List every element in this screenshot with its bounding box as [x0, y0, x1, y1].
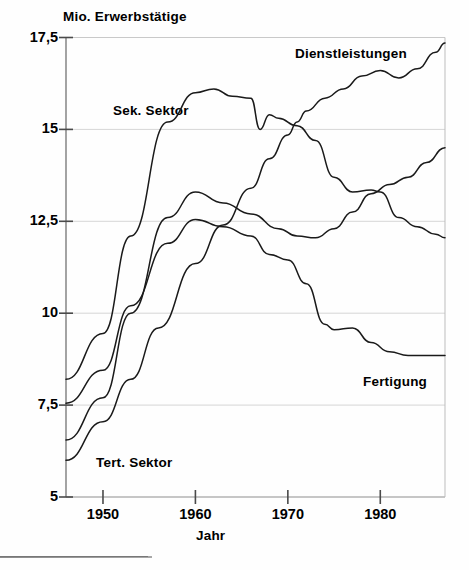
axis-lines	[66, 38, 445, 498]
gridlines	[66, 38, 445, 406]
plot-area	[0, 0, 469, 570]
chart-figure: Mio. Erwerbstätige 5 7,5 10 12,5 15 17,5…	[0, 0, 469, 570]
tick-marks	[59, 38, 380, 505]
series-lines	[66, 43, 445, 460]
scan-artifact-line-thin	[0, 556, 148, 557]
